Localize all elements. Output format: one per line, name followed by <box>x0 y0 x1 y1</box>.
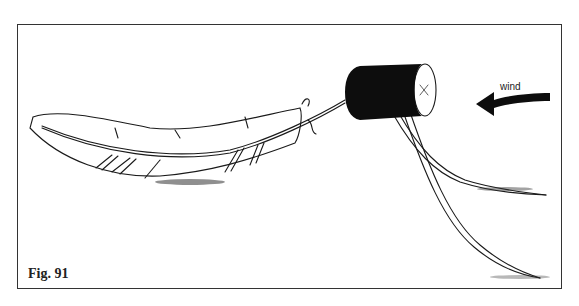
wind-label: wind <box>500 81 521 92</box>
cylinder-end <box>414 64 436 116</box>
feather-outline <box>30 108 301 176</box>
weight-cylinder <box>345 64 422 120</box>
feather-illustration <box>0 0 579 306</box>
wind-arrow-icon <box>476 92 550 116</box>
rod-2 <box>410 112 540 278</box>
figure-caption: Fig. 91 <box>28 266 68 282</box>
